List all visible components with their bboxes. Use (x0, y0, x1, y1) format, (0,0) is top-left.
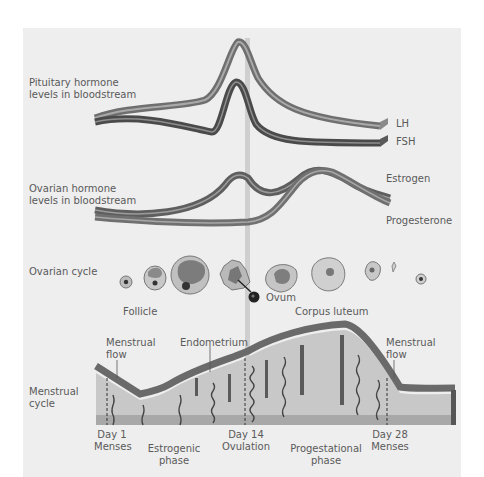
timeline-estrogenic: Estrogenicphase (146, 443, 202, 467)
menstrual-flow-right-label: Menstrualflow (386, 337, 436, 361)
progesterone-label: Progesterone (386, 215, 452, 227)
timeline-day28: Day 28Menses (368, 429, 412, 453)
basal-layer (96, 415, 455, 425)
timeline-progestational: Progestationalphase (288, 443, 364, 467)
pituitary-label: Pituitary hormonelevels in bloodstream (29, 77, 136, 101)
ovum-label: Ovum (266, 292, 296, 304)
estrogen-label: Estrogen (386, 173, 430, 185)
timeline-day14: Day 14Ovulation (220, 429, 272, 453)
menstrual-flow-left-label: Menstrualflow (106, 337, 156, 361)
ovarian-cycle-label: Ovarian cycle (29, 266, 97, 278)
ovarian-hormone-label: Ovarian hormonelevels in bloodstream (29, 183, 136, 207)
corpus-luteum-label: Corpus luteum (295, 306, 369, 318)
lh-label: LH (396, 118, 409, 130)
corpus-albicans (392, 262, 396, 272)
menstrual-cycle-label: Menstrualcycle (29, 386, 79, 410)
fsh-curve (95, 82, 388, 147)
endometrium-label: Endometrium (180, 337, 248, 349)
follicle-label: Follicle (123, 306, 157, 318)
fsh-label: FSH (396, 136, 415, 148)
timeline-day1: Day 1Menses (94, 429, 130, 453)
